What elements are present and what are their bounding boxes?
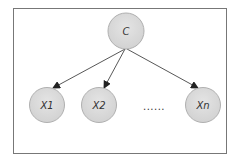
node-xn: Xn bbox=[186, 88, 221, 123]
node-x1: X1 bbox=[30, 88, 65, 123]
node-x2: X2 bbox=[82, 88, 117, 123]
ellipsis: ...... bbox=[143, 101, 165, 112]
node-c-label: C bbox=[123, 26, 130, 37]
node-x2-label: X2 bbox=[91, 100, 105, 111]
node-x1-label: X1 bbox=[39, 100, 53, 111]
node-xn-label: Xn bbox=[195, 100, 209, 111]
diagram-canvas: C X1 X2 Xn ...... bbox=[0, 0, 235, 160]
node-c: C bbox=[108, 13, 144, 49]
